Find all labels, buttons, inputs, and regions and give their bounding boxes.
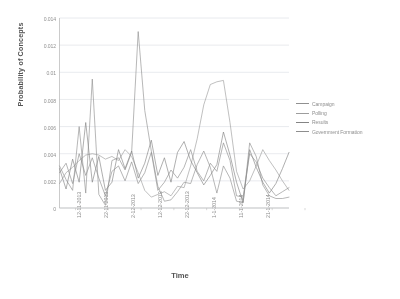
legend-swatch-icon [296,122,309,123]
legend-swatch-icon [296,103,309,104]
legend-item[interactable]: Polling [296,108,398,117]
legend-item[interactable]: Campaign [296,99,398,108]
plot-area [0,0,400,299]
legend-label: Results [312,119,328,125]
chart-figure: Probability of Concepts Time 0.014 0.012… [0,0,400,299]
chart-legend: Campaign Polling Results Government Form… [296,99,398,137]
legend-item[interactable]: Government Formation [296,127,398,136]
legend-swatch-icon [296,131,309,132]
legend-label: Campaign [312,101,334,107]
legend-label: Government Formation [312,129,362,135]
legend-item[interactable]: Results [296,118,398,127]
legend-swatch-icon [296,113,309,114]
legend-label: Polling [312,110,327,116]
